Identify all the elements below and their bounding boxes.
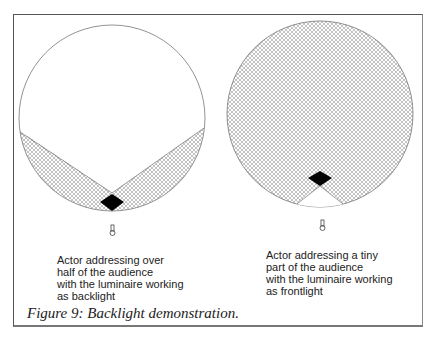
backlight-description: Actor addressing over half of the audien… — [57, 254, 184, 302]
luminaire-icon-left — [110, 225, 115, 236]
figure-caption: Figure 9: Backlight demonstration. — [27, 305, 239, 322]
audience-circle-left — [14, 25, 210, 220]
frontlight-description: Actor addressing a tiny part of the audi… — [266, 249, 393, 297]
luminaire-icon-right — [320, 220, 325, 231]
